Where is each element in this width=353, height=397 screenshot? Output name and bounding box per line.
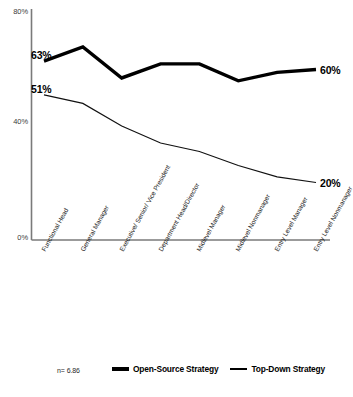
chart-legend: Open-Source Strategy Top-Down Strategy xyxy=(112,364,325,374)
series-start-label-open-source: 63% xyxy=(31,49,51,61)
series-end-label-top-down: 20% xyxy=(320,177,340,189)
series-end-label-open-source: 60% xyxy=(320,64,340,76)
legend-item-top-down-strategy[interactable]: Top-Down Strategy xyxy=(230,364,325,374)
legend-label-open-source-strategy: Open-Source Strategy xyxy=(133,364,218,374)
series-start-label-top-down: 51% xyxy=(31,83,51,95)
series-line-top-down-strategy xyxy=(44,95,316,183)
legend-item-open-source-strategy[interactable]: Open-Source Strategy xyxy=(112,364,218,374)
legend-swatch-thick-line-icon xyxy=(112,367,129,370)
series-line-open-source-strategy xyxy=(44,47,316,81)
legend-swatch-thin-line-icon xyxy=(230,368,247,369)
legend-label-top-down-strategy: Top-Down Strategy xyxy=(251,364,325,374)
sample-size-note: n= 6.86 xyxy=(57,367,80,374)
